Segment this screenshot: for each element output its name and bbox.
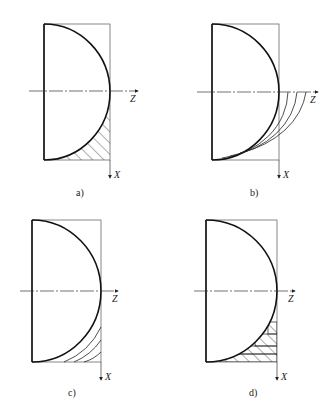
x-label: X xyxy=(113,169,121,180)
concentric-pass-3 xyxy=(84,352,101,362)
panel-caption: b) xyxy=(250,187,258,199)
panel-b: Z X b) xyxy=(197,24,318,199)
panel-a: Z X a) xyxy=(29,24,138,199)
x-label: X xyxy=(104,371,112,382)
stepped-hatched-region xyxy=(220,322,277,362)
figure-canvas: Z X a) Z X b) Z X c) xyxy=(0,0,332,413)
panel-caption: a) xyxy=(76,187,84,199)
x-label: X xyxy=(282,169,290,180)
z-label: Z xyxy=(288,293,294,304)
hatched-region xyxy=(44,91,110,160)
panel-d: Z X d) xyxy=(194,220,295,399)
panel-caption: d) xyxy=(249,387,257,399)
z-label: Z xyxy=(310,94,316,105)
offset-pass-3 xyxy=(240,92,306,153)
z-label: Z xyxy=(130,93,136,104)
panel-caption: c) xyxy=(68,387,76,399)
x-label: X xyxy=(280,371,288,382)
panel-c: Z X c) xyxy=(20,220,118,399)
z-label: Z xyxy=(112,293,118,304)
